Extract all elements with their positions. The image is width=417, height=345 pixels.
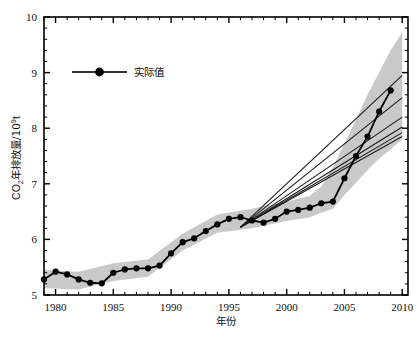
y-axis-title: CO2年排放量/109t	[9, 116, 25, 200]
data-point-marker	[191, 235, 197, 241]
data-point-marker	[76, 276, 82, 282]
y-tick-label: 5	[32, 289, 38, 301]
data-point-marker	[237, 214, 243, 220]
data-point-marker	[110, 270, 116, 276]
x-tick-label: 1985	[102, 301, 125, 313]
y-tick-label: 7	[32, 178, 38, 190]
x-tick-label: 2005	[333, 301, 356, 313]
data-point-marker	[364, 133, 370, 139]
projection-6	[240, 137, 402, 228]
y-tick-label: 6	[32, 233, 38, 245]
data-point-marker	[180, 239, 186, 245]
chart-canvas: 1980198519901995200020052010 5678910 实际值…	[0, 0, 417, 345]
data-point-marker	[122, 266, 128, 272]
data-point-marker	[388, 87, 394, 93]
x-tick-label: 2010	[391, 301, 414, 313]
data-point-marker	[341, 175, 347, 181]
data-point-marker	[87, 280, 93, 286]
y-axis-title-text: CO2年排放量/109t	[9, 116, 25, 200]
y-axis-title-base: CO	[10, 184, 22, 200]
data-point-marker	[133, 265, 139, 271]
data-point-marker	[307, 205, 313, 211]
data-point-marker	[64, 271, 70, 277]
data-point-marker	[168, 250, 174, 256]
data-point-marker	[376, 108, 382, 114]
data-point-marker	[203, 228, 209, 234]
data-point-marker	[52, 269, 58, 275]
legend-label-actual: 实际值	[134, 66, 165, 78]
y-tick-labels: 5678910	[26, 11, 38, 301]
x-tick-label: 2000	[276, 301, 299, 313]
data-point-marker	[272, 216, 278, 222]
y-tick-label: 9	[32, 67, 38, 79]
data-point-marker	[260, 220, 266, 226]
data-point-marker	[226, 216, 232, 222]
y-axis-title-tail: t	[10, 116, 22, 119]
x-tick-label: 1990	[160, 301, 183, 313]
data-point-marker	[99, 280, 105, 286]
data-point-marker	[353, 153, 359, 159]
x-axis-title-text: 年份	[216, 315, 237, 327]
data-point-marker	[249, 217, 255, 223]
x-tick-labels: 1980198519901995200020052010	[45, 301, 414, 313]
data-point-marker	[214, 221, 220, 227]
x-tick-label: 1995	[218, 301, 241, 313]
data-point-marker	[318, 200, 324, 206]
data-point-marker	[284, 209, 290, 215]
y-tick-label: 8	[32, 122, 38, 134]
data-point-marker	[145, 265, 151, 271]
x-axis-title: 年份	[216, 315, 237, 327]
y-tick-label: 10	[26, 11, 38, 23]
data-point-marker	[330, 198, 336, 204]
y-axis-title-mid: 年排放量/10	[10, 123, 22, 180]
legend: 实际值	[72, 66, 165, 78]
chart-figure: 1980198519901995200020052010 5678910 实际值…	[0, 0, 417, 345]
data-point-marker	[156, 262, 162, 268]
data-point-marker	[295, 207, 301, 213]
x-tick-label: 1980	[45, 301, 68, 313]
